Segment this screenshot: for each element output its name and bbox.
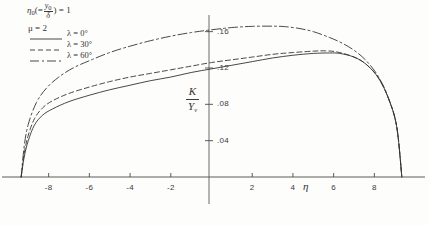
x-tick-label: 2 [238, 183, 266, 192]
y-tick-label: .08 [217, 99, 229, 108]
y-axis-denominator: Yv [186, 100, 199, 114]
y-tick-label: .16 [217, 27, 229, 36]
legend: λ = 0°λ = 30°λ = 60° [30, 28, 92, 61]
y-tick-label: .04 [217, 136, 229, 145]
legend-label: λ = 60° [67, 50, 92, 60]
legend-item: λ = 30° [30, 39, 92, 49]
eta-open-paren: (= [35, 5, 43, 15]
y-tick-label: .12 [217, 63, 229, 72]
data-curve [21, 53, 402, 177]
y-axis-denominator-sub: v [194, 105, 197, 112]
data-curve [21, 51, 402, 177]
eta-zero-annotation: η0(=y0δ) = 1 [27, 2, 71, 21]
x-tick-label: -6 [75, 183, 103, 192]
x-tick-label: -8 [35, 183, 63, 192]
y0-over-delta-fraction: y0δ [44, 2, 53, 21]
legend-label: λ = 0° [67, 28, 88, 38]
legend-line-sample [30, 29, 62, 37]
legend-label: λ = 30° [67, 39, 92, 49]
x-tick-label: 6 [320, 183, 348, 192]
legend-line-sample [30, 51, 62, 59]
frac-denominator: δ [44, 12, 53, 20]
y-axis-numerator: K [186, 86, 199, 100]
figure-container: η0(=y0δ) = 1 μ = 2 λ = 0°λ = 30°λ = 60° … [0, 0, 429, 225]
x-tick-label: 8 [360, 183, 388, 192]
x-tick-label: -4 [116, 183, 144, 192]
y-axis-label: K Yv [186, 86, 199, 113]
frac-numerator-sub: 0 [48, 4, 51, 11]
legend-item: λ = 0° [30, 28, 92, 38]
eta-close-paren: ) = 1 [54, 5, 71, 15]
legend-line-sample [30, 40, 62, 48]
x-tick-label: 4 [279, 183, 307, 192]
legend-item: λ = 60° [30, 50, 92, 60]
x-tick-label: -2 [157, 183, 185, 192]
